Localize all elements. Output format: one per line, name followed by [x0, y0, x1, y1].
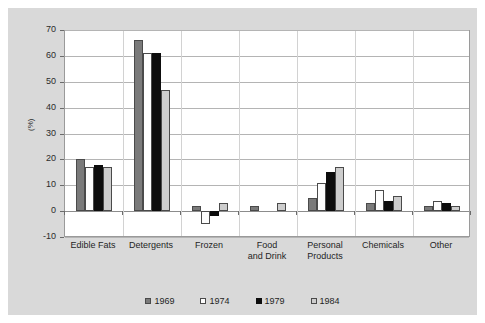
category-label: Edible Fats: [64, 240, 122, 251]
legend-label: 1969: [154, 296, 174, 306]
bar: [335, 167, 344, 211]
category-label: Detergents: [122, 240, 180, 251]
bar: [201, 211, 210, 224]
bar: [192, 206, 201, 211]
legend-item: 1984: [311, 296, 340, 306]
y-axis-tick-label: 0: [51, 206, 56, 215]
y-axis-tick-label: 10: [46, 180, 56, 189]
category-label: Frozen: [180, 240, 238, 251]
bar: [317, 183, 326, 211]
y-axis-tick-label: 20: [46, 154, 56, 163]
category-label-line: Personal: [296, 240, 354, 251]
group-separator: [181, 31, 182, 236]
y-axis-tick-label: 30: [46, 129, 56, 138]
group-separator: [297, 31, 298, 236]
x-axis-tick-mark: [64, 211, 65, 215]
gridline: [65, 237, 469, 238]
category-label-line: Detergents: [122, 240, 180, 251]
bar: [277, 203, 286, 211]
bar: [76, 159, 85, 211]
legend-swatch-icon: [145, 298, 151, 304]
bar: [375, 190, 384, 211]
bar: [94, 165, 103, 212]
group-separator: [239, 31, 240, 236]
legend-swatch-icon: [256, 298, 262, 304]
category-label-line: Other: [412, 240, 470, 251]
category-label: Foodand Drink: [238, 240, 296, 262]
legend-item: 1974: [200, 296, 229, 306]
bar-group: [239, 31, 297, 236]
bar: [326, 172, 335, 211]
bar: [366, 203, 375, 211]
x-axis-tick-mark: [122, 211, 123, 215]
category-label: PersonalProducts: [296, 240, 354, 262]
bar: [393, 196, 402, 212]
bar: [143, 53, 152, 211]
bar: [308, 198, 317, 211]
group-separator: [123, 31, 124, 236]
legend-item: 1979: [256, 296, 285, 306]
bar: [250, 206, 259, 211]
y-axis-tick-label: 50: [46, 77, 56, 86]
bar: [424, 206, 433, 211]
y-axis-tick-label: -10: [43, 232, 56, 241]
x-axis-tick-mark: [238, 211, 239, 215]
category-label: Other: [412, 240, 470, 251]
x-axis-tick-mark: [412, 211, 413, 215]
group-separator: [413, 31, 414, 236]
legend-label: 1979: [265, 296, 285, 306]
bar: [85, 167, 94, 211]
x-axis-tick-mark: [296, 211, 297, 215]
bar: [384, 201, 393, 211]
bars-layer: [65, 31, 469, 236]
category-label-line: Edible Fats: [64, 240, 122, 251]
x-axis-tick-mark: [470, 211, 471, 215]
legend-label: 1974: [209, 296, 229, 306]
bar-chart: -10010203040506070 (%) Edible FatsDeterg…: [0, 0, 485, 323]
y-axis-tick-mark: [60, 237, 64, 238]
category-label-line: and Drink: [238, 251, 296, 262]
x-axis-tick-mark: [180, 211, 181, 215]
legend-item: 1969: [145, 296, 174, 306]
y-axis-tick-label: 70: [46, 25, 56, 34]
category-label-line: Chemicals: [354, 240, 412, 251]
group-separator: [355, 31, 356, 236]
chart-legend: 1969197419791984: [0, 296, 485, 306]
category-label: Chemicals: [354, 240, 412, 251]
category-label-line: Frozen: [180, 240, 238, 251]
bar: [161, 90, 170, 212]
category-label-line: Food: [238, 240, 296, 251]
bar: [433, 201, 442, 211]
bar: [210, 211, 219, 216]
bar: [219, 203, 228, 211]
bar: [103, 167, 112, 211]
legend-swatch-icon: [311, 298, 317, 304]
y-axis-title: (%): [26, 119, 35, 131]
y-axis-tick-label: 40: [46, 103, 56, 112]
bar-group: [123, 31, 181, 236]
bar: [134, 40, 143, 211]
y-axis-tick-label: 60: [46, 51, 56, 60]
bar-group: [181, 31, 239, 236]
bar: [152, 53, 161, 211]
x-axis-category-labels: Edible FatsDetergentsFrozenFoodand Drink…: [64, 240, 470, 278]
x-axis-tick-mark: [354, 211, 355, 215]
bar-group: [355, 31, 413, 236]
legend-label: 1984: [320, 296, 340, 306]
category-label-line: Products: [296, 251, 354, 262]
bar-group: [297, 31, 355, 236]
bar-group: [413, 31, 471, 236]
bar-group: [65, 31, 123, 236]
bar: [442, 203, 451, 211]
bar: [451, 206, 460, 211]
legend-swatch-icon: [200, 298, 206, 304]
